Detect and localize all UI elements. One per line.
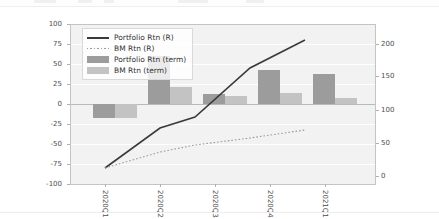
- x-axis-tick-label: 2020Q4: [266, 190, 274, 218]
- y-axis-left-tick-label: 100: [49, 20, 62, 28]
- tickmark-left: [67, 144, 70, 145]
- tickmark-x: [325, 184, 326, 187]
- tickmark-x: [160, 184, 161, 187]
- y-axis-left-tick-label: -25: [51, 120, 62, 128]
- axis-spine-top: [70, 24, 376, 25]
- y-axis-left-tick-label: 50: [53, 60, 62, 68]
- tickmark-left: [67, 44, 70, 45]
- y-axis-right-tick-label: 200: [381, 40, 394, 48]
- legend-item-bm-rtn-r: BM Rtn (R): [87, 43, 186, 54]
- x-axis-tick-label: 2020Q3: [211, 190, 219, 218]
- y-axis-left-tick-label: 25: [53, 80, 62, 88]
- y-axis-left-tick-label: -100: [46, 180, 62, 188]
- y-axis-right-tick-label: 0: [381, 172, 385, 180]
- tickmark-right: [376, 143, 379, 144]
- legend-label: BM Rtn (term): [114, 66, 167, 75]
- x-axis-tick-label: 2020Q2: [156, 190, 164, 218]
- tickmark-x: [270, 184, 271, 187]
- bar-swatch-dark-icon: [87, 55, 109, 64]
- tickmark-x: [215, 184, 216, 187]
- y-axis-right-tick-label: 150: [381, 72, 394, 80]
- tickmark-left: [67, 184, 70, 185]
- notebook-toolbar-strip: [0, 0, 439, 7]
- tickmark-left: [67, 104, 70, 105]
- tickmark-left: [67, 124, 70, 125]
- bar-swatch-light-icon: [87, 66, 109, 75]
- x-axis-tick-label: 2021Q1: [321, 190, 329, 218]
- tickmark-left: [67, 24, 70, 25]
- y-axis-left-tick-label: -50: [51, 140, 62, 148]
- dotted-line-icon: [87, 44, 109, 53]
- x-axis-tick-label: 2020Q1: [101, 190, 109, 218]
- tickmark-right: [376, 110, 379, 111]
- legend-label: Portfolio Rtn (term): [114, 55, 186, 64]
- tickmark-x: [105, 184, 106, 187]
- axis-spine-bottom: [70, 184, 376, 185]
- y-axis-right-tick-label: 100: [381, 106, 394, 114]
- axis-spine-right: [375, 24, 376, 184]
- tickmark-right: [376, 44, 379, 45]
- tickmark-left: [67, 64, 70, 65]
- solid-line-icon: [87, 33, 109, 42]
- line-bm-rtn-r: [105, 130, 305, 168]
- y-axis-right-tick-label: 50: [381, 139, 390, 147]
- tickmark-left: [67, 84, 70, 85]
- legend-item-portfolio-rtn-r: Portfolio Rtn (R): [87, 32, 186, 43]
- tickmark-right: [376, 176, 379, 177]
- legend-item-portfolio-rtn-term: Portfolio Rtn (term): [87, 54, 186, 65]
- legend-label: Portfolio Rtn (R): [114, 33, 174, 42]
- y-axis-left-tick-label: -75: [51, 160, 62, 168]
- y-axis-left-tick-label: 0: [58, 100, 62, 108]
- axis-spine-left: [70, 24, 71, 184]
- legend-item-bm-rtn-term: BM Rtn (term): [87, 65, 186, 76]
- y-axis-left-tick-label: 75: [53, 40, 62, 48]
- tickmark-right: [376, 76, 379, 77]
- tickmark-left: [67, 164, 70, 165]
- cell-bottom-divider: [0, 212, 439, 213]
- chart-figure: 100 75 50 25 0 -25 -50 -75 -100 200 150 …: [0, 8, 439, 213]
- chart-legend: Portfolio Rtn (R) BM Rtn (R) Portfolio R…: [82, 28, 193, 80]
- legend-label: BM Rtn (R): [114, 44, 154, 53]
